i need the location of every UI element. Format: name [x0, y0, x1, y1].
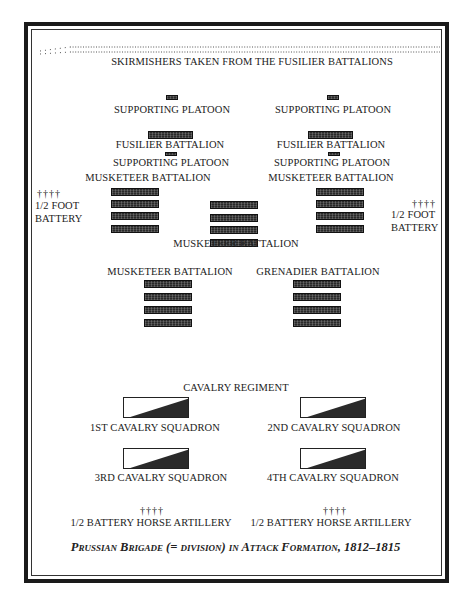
left-supporting-platoon-label: SUPPORTING PLATOON: [114, 104, 230, 115]
company-block: [111, 188, 159, 196]
right-battery-line2: BATTERY: [391, 222, 438, 233]
left-supporting-platoon-2-label: SUPPORTING PLATOON: [113, 157, 229, 168]
cavalry-squadron-symbol: [300, 448, 366, 469]
cannon-icons: ††††: [37, 188, 61, 199]
left-musketeer-battalion-label: MUSKETEER BATTALION: [85, 172, 211, 183]
right-supporting-platoon-2-label: SUPPORTING PLATOON: [274, 157, 390, 168]
supporting-platoon-block: [328, 152, 340, 156]
cannon-icons: ††††: [323, 505, 347, 516]
skirmisher-line: [40, 44, 440, 56]
company-block: [210, 214, 258, 222]
second-line-musketeer-label: MUSKETEER BATTALION: [107, 266, 233, 277]
cannon-icons: ††††: [140, 505, 164, 516]
right-fusilier-battalion-block: [308, 131, 353, 139]
cavalry-regiment-label: CAVALRY REGIMENT: [183, 382, 289, 393]
squadron-3-label: 3RD CAVALRY SQUADRON: [95, 472, 228, 483]
squadron-2-label: 2ND CAVALRY SQUADRON: [267, 422, 400, 433]
right-battery-line1: 1/2 FOOT: [391, 209, 435, 220]
right-fusilier-battalion-label: FUSILIER BATTALION: [277, 139, 386, 150]
cavalry-squadron-symbol: [123, 448, 189, 469]
supporting-platoon-block: [165, 152, 177, 156]
squadron-1-label: 1ST CAVALRY SQUADRON: [90, 422, 220, 433]
left-fusilier-battalion-block: [148, 131, 193, 139]
squadron-4-label: 4TH CAVALRY SQUADRON: [267, 472, 399, 483]
company-block: [144, 293, 192, 301]
horse-artillery-left-label: 1/2 BATTERY HORSE ARTILLERY: [70, 517, 231, 528]
cavalry-squadron-symbol: [300, 397, 366, 418]
left-battery-line2: BATTERY: [35, 213, 82, 224]
cannon-icons: ††††: [412, 198, 436, 209]
horse-artillery-right-label: 1/2 BATTERY HORSE ARTILLERY: [250, 517, 411, 528]
company-block: [144, 306, 192, 314]
company-block: [293, 319, 341, 327]
left-fusilier-battalion-label: FUSILIER BATTALION: [116, 139, 225, 150]
company-block: [293, 306, 341, 314]
company-block: [111, 200, 159, 208]
figure-caption: Prussian Brigade (= division) in Attack …: [0, 540, 471, 555]
center-musketeer-battalion-label: MUSKETEER BATTALION: [173, 238, 299, 249]
left-battery-line1: 1/2 FOOT: [35, 200, 79, 211]
cavalry-squadron-symbol: [123, 397, 189, 418]
company-block: [111, 212, 159, 220]
supporting-platoon-block: [327, 95, 339, 100]
company-block: [111, 225, 159, 233]
company-block: [210, 201, 258, 209]
company-block: [316, 225, 364, 233]
company-block: [144, 280, 192, 288]
skirmishers-label: SKIRMISHERS TAKEN FROM THE FUSILIER BATT…: [111, 56, 393, 67]
right-supporting-platoon-label: SUPPORTING PLATOON: [275, 104, 391, 115]
company-block: [316, 200, 364, 208]
company-block: [316, 212, 364, 220]
company-block: [210, 226, 258, 234]
company-block: [293, 280, 341, 288]
right-musketeer-battalion-label: MUSKETEER BATTALION: [268, 172, 394, 183]
company-block: [144, 319, 192, 327]
supporting-platoon-block: [166, 95, 178, 100]
company-block: [293, 293, 341, 301]
company-block: [316, 188, 364, 196]
grenadier-battalion-label: GRENADIER BATTALION: [256, 266, 379, 277]
